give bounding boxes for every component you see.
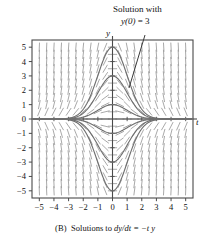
annotation-line-2: y(0) = 3 — [121, 16, 150, 26]
axis-ticks — [29, 47, 186, 201]
annotation-initial-value: = 3 — [136, 16, 150, 26]
x-tick-label: −4 — [49, 202, 59, 212]
caption-equation: dy/dt = −t y — [114, 223, 155, 233]
y-tick-label: −5 — [17, 186, 26, 196]
y-tick-label: 3 — [22, 71, 26, 81]
y-tick-label: 0 — [22, 114, 26, 124]
plot-axes — [32, 36, 197, 198]
x-axis-tick-labels: −5−4−3−2−1012345 — [35, 202, 188, 212]
caption-text: Solutions to — [71, 223, 112, 233]
slope-field-plot: −5−4−3−2−1012345 543210−1−2−3−4−5 — [0, 0, 210, 241]
y-axis-tick-labels: 543210−1−2−3−4−5 — [17, 42, 27, 196]
x-tick-label: 0 — [110, 202, 114, 212]
y-axis-label: y — [106, 28, 110, 38]
y-tick-label: −4 — [17, 171, 27, 181]
caption-label: (B) — [55, 223, 67, 233]
x-tick-label: 2 — [140, 202, 144, 212]
x-tick-label: −3 — [64, 202, 73, 212]
y-tick-label: 1 — [22, 100, 26, 110]
y-tick-label: −2 — [17, 143, 26, 153]
y-tick-label: 2 — [22, 85, 26, 95]
y-tick-label: 4 — [22, 57, 27, 67]
figure-container: −5−4−3−2−1012345 543210−1−2−3−4−5 Soluti… — [0, 0, 210, 241]
x-tick-label: −2 — [79, 202, 88, 212]
x-tick-label: −1 — [93, 202, 102, 212]
y-tick-label: −1 — [17, 128, 26, 138]
x-tick-label: −5 — [35, 202, 44, 212]
annotation-line-1: Solution with — [113, 4, 162, 14]
x-tick-label: 1 — [125, 202, 129, 212]
y-tick-label: 5 — [22, 42, 26, 52]
x-tick-label: 4 — [169, 202, 174, 212]
x-tick-label: 3 — [154, 202, 158, 212]
annotation-initial-condition: y(0) — [121, 16, 136, 26]
t-axis-label: t — [196, 117, 199, 127]
x-tick-label: 5 — [184, 202, 188, 212]
figure-caption: (B) Solutions to dy/dt = −t y — [0, 223, 210, 233]
y-tick-label: −3 — [17, 157, 26, 167]
